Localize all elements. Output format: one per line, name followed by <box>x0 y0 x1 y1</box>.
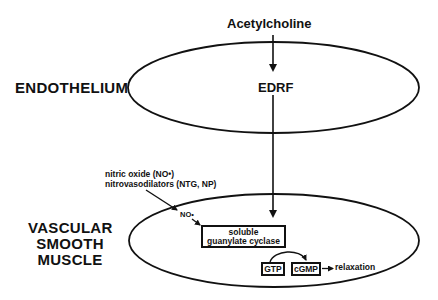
smooth-muscle-label: VASCULAR SMOOTH MUSCLE <box>28 220 112 268</box>
acetylcholine-label: Acetylcholine <box>227 16 312 31</box>
nitrovasodilators-text: nitrovasodilators (NTG, NP) <box>105 180 216 190</box>
smooth-muscle-label-line-1: VASCULAR <box>28 220 112 236</box>
endothelium-label: ENDOTHELIUM <box>15 79 128 96</box>
guanylate-cyclase-line-2: guanylate cyclase <box>203 237 284 246</box>
relaxation-label: relaxation <box>335 263 375 273</box>
arrow-no-to-guanylate-cyclase <box>192 219 200 225</box>
smooth-muscle-label-line-3: MUSCLE <box>28 252 112 268</box>
smooth-muscle-label-line-2: SMOOTH <box>28 236 112 252</box>
gtp-box: GTP <box>261 262 285 276</box>
arrow-nitric-oxide-to-no <box>146 190 177 210</box>
edrf-label: EDRF <box>258 80 293 95</box>
arrow-gtp-to-cgmp <box>270 252 306 262</box>
external-inputs-label: nitric oxide (NO•) nitrovasodilators (NT… <box>105 170 216 189</box>
no-radical-label: NO• <box>180 210 194 219</box>
cgmp-box: cGMP <box>291 262 321 276</box>
guanylate-cyclase-box: soluble guanylate cyclase <box>201 225 286 248</box>
